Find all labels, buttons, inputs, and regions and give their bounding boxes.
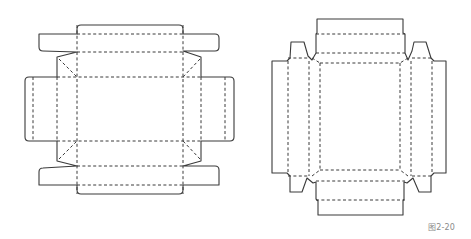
left-diag-br <box>183 141 200 159</box>
figure-caption: 图2-20 <box>428 221 455 232</box>
left-diag-tl <box>59 59 77 77</box>
right-diag-tr <box>400 58 408 63</box>
left-diag-bl <box>59 141 77 159</box>
left-diag-tr <box>183 59 200 77</box>
figure-canvas <box>0 0 471 239</box>
left-net-outline <box>25 25 234 194</box>
right-tray-net <box>272 19 446 215</box>
right-net-outline <box>272 19 446 215</box>
right-diag-br <box>400 170 408 176</box>
right-diag-tl <box>312 58 320 63</box>
left-box-net <box>25 25 234 194</box>
right-diag-bl <box>312 170 320 176</box>
